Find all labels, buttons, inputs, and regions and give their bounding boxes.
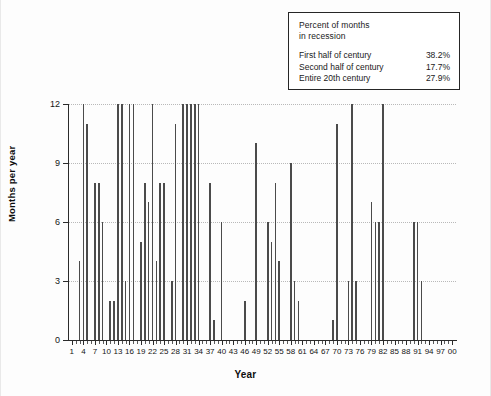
x-tick-label-19: 19 xyxy=(137,347,146,356)
note-row-entire-century: Entire 20th century 27.9% xyxy=(299,73,450,85)
bar-year-17 xyxy=(133,104,135,340)
y-tick-mark-3 xyxy=(63,281,68,282)
x-minor-tick-59 xyxy=(295,341,296,344)
x-tick-mark-67 xyxy=(325,341,326,345)
x-minor-tick-44 xyxy=(237,341,238,344)
x-minor-tick-65 xyxy=(318,341,319,344)
x-tick-mark-70 xyxy=(337,341,338,345)
bar-year-7 xyxy=(94,183,96,340)
x-minor-tick-80 xyxy=(375,341,376,344)
x-tick-mark-58 xyxy=(291,341,292,345)
x-tick-mark-94 xyxy=(429,341,430,345)
bar-year-54 xyxy=(275,183,277,340)
bar-year-40 xyxy=(221,222,223,340)
x-tick-label-79: 79 xyxy=(367,347,376,356)
bar-year-25 xyxy=(163,183,165,340)
x-tick-mark-85 xyxy=(395,341,396,345)
x-tick-label-37: 37 xyxy=(206,347,215,356)
x-minor-tick-56 xyxy=(283,341,284,344)
x-tick-mark-82 xyxy=(383,341,384,345)
bar-year-82 xyxy=(382,104,384,340)
x-minor-tick-53 xyxy=(272,341,273,344)
x-minor-tick-27 xyxy=(172,341,173,344)
x-minor-tick-14 xyxy=(122,341,123,344)
x-tick-label-43: 43 xyxy=(229,347,238,356)
plot-area xyxy=(68,104,456,340)
gridline-12 xyxy=(68,104,456,106)
x-minor-tick-96 xyxy=(437,341,438,344)
bar-year-55 xyxy=(278,261,280,340)
x-tick-label-4: 4 xyxy=(81,347,85,356)
x-minor-tick-5 xyxy=(87,341,88,344)
bar-year-37 xyxy=(209,183,211,340)
x-axis-ticks: 1471013161922252831343740434649525558616… xyxy=(68,341,457,363)
x-minor-tick-17 xyxy=(133,341,134,344)
x-tick-label-10: 10 xyxy=(102,347,111,356)
bar-year-24 xyxy=(159,183,161,340)
note-label-first-half: First half of century xyxy=(299,50,371,62)
x-minor-tick-93 xyxy=(425,341,426,344)
bar-year-4 xyxy=(83,104,85,340)
x-tick-mark-37 xyxy=(210,341,211,345)
x-minor-tick-35 xyxy=(202,341,203,344)
bar-year-53 xyxy=(271,242,273,340)
x-minor-tick-84 xyxy=(391,341,392,344)
x-tick-label-97: 97 xyxy=(436,347,445,356)
x-minor-tick-42 xyxy=(229,341,230,344)
x-tick-mark-1 xyxy=(72,341,73,345)
x-minor-tick-30 xyxy=(183,341,184,344)
x-minor-tick-75 xyxy=(356,341,357,344)
x-tick-label-85: 85 xyxy=(390,347,399,356)
x-tick-label-67: 67 xyxy=(321,347,330,356)
x-tick-mark-22 xyxy=(153,341,154,345)
note-row-first-half: First half of century 38.2% xyxy=(299,50,450,62)
bar-year-49 xyxy=(255,143,257,340)
x-minor-tick-50 xyxy=(260,341,261,344)
x-minor-tick-99 xyxy=(448,341,449,344)
x-tick-label-00: 00 xyxy=(448,347,457,356)
x-minor-tick-33 xyxy=(195,341,196,344)
x-minor-tick-15 xyxy=(126,341,127,344)
x-minor-tick-45 xyxy=(241,341,242,344)
x-tick-mark-16 xyxy=(129,341,130,345)
x-axis-title: Year xyxy=(0,369,491,380)
bar-year-91 xyxy=(417,222,419,340)
x-minor-tick-87 xyxy=(402,341,403,344)
y-tick-label-3: 3 xyxy=(55,276,60,286)
bar-year-28 xyxy=(175,124,177,340)
x-tick-mark-46 xyxy=(245,341,246,345)
x-minor-tick-81 xyxy=(379,341,380,344)
y-axis-title: Months per year xyxy=(6,146,17,222)
y-tick-mark-9 xyxy=(63,163,68,164)
x-tick-mark-4 xyxy=(83,341,84,345)
note-title: Percent of months in recession xyxy=(299,20,450,42)
x-minor-tick-69 xyxy=(333,341,334,344)
bar-year-19 xyxy=(140,242,142,340)
x-tick-mark-00 xyxy=(452,341,453,345)
bar-year-81 xyxy=(378,222,380,340)
x-minor-tick-66 xyxy=(322,341,323,344)
y-tick-label-12: 12 xyxy=(50,99,60,109)
bar-year-13 xyxy=(117,104,119,340)
x-tick-label-40: 40 xyxy=(217,347,226,356)
x-tick-mark-19 xyxy=(141,341,142,345)
note-label-entire-century: Entire 20th century xyxy=(299,73,370,85)
bar-year-34 xyxy=(198,104,200,340)
recession-percent-note-box: Percent of months in recession First hal… xyxy=(288,12,460,90)
x-minor-tick-71 xyxy=(341,341,342,344)
bar-year-52 xyxy=(267,222,269,340)
x-minor-tick-62 xyxy=(306,341,307,344)
bar-year-92 xyxy=(421,281,423,340)
x-tick-label-64: 64 xyxy=(309,347,318,356)
bar-year-70 xyxy=(336,124,338,340)
x-minor-tick-11 xyxy=(110,341,111,344)
x-tick-label-22: 22 xyxy=(148,347,157,356)
x-minor-tick-74 xyxy=(352,341,353,344)
x-tick-mark-13 xyxy=(118,341,119,345)
x-minor-tick-21 xyxy=(149,341,150,344)
bar-year-38 xyxy=(213,320,215,340)
x-minor-tick-77 xyxy=(364,341,365,344)
x-minor-tick-8 xyxy=(99,341,100,344)
x-tick-mark-88 xyxy=(406,341,407,345)
bar-year-46 xyxy=(244,301,246,340)
